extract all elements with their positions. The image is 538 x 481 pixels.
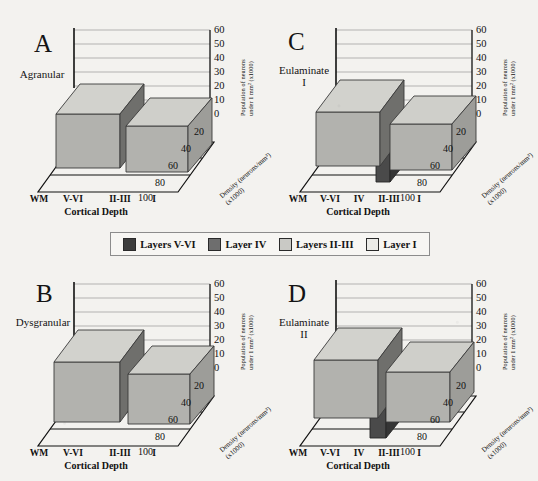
tick-x-i: I	[410, 194, 428, 204]
panel-c: C Eulaminate I	[262, 18, 531, 233]
legend-label-layers-ii-iii: Layers II-III	[296, 239, 353, 250]
tick-y-0: 0	[214, 362, 232, 373]
panel-b-plot: 60 50 40 30 20 10 0 Population of neuron…	[28, 276, 266, 472]
panel-c-plot: 60 50 40 30 20 10 0 Population of neuron…	[290, 22, 528, 218]
tick-x-ii-iii: II-III	[370, 194, 408, 204]
x-axis-label: Cortical Depth	[26, 460, 166, 471]
legend-item-layers-ii-iii: Layers II-III	[279, 238, 353, 251]
tick-y-60: 60	[214, 278, 232, 289]
tick-x-ii-iii: II-III	[370, 448, 408, 458]
tick-y-60: 60	[476, 24, 494, 35]
tick-density-40: 40	[443, 143, 453, 154]
tick-density-40: 40	[181, 143, 191, 154]
tick-y-60: 60	[476, 278, 494, 289]
legend-label-layer-i: Layer I	[383, 239, 416, 250]
tick-y-10: 10	[476, 348, 494, 359]
tick-x-i: I	[144, 194, 164, 204]
tick-y-20: 20	[214, 334, 232, 345]
tick-y-10: 10	[214, 94, 232, 105]
legend-item-layer-i: Layer I	[366, 238, 416, 251]
tick-y-50: 50	[476, 38, 494, 49]
tick-y-30: 30	[476, 66, 494, 77]
x-axis-label: Cortical Depth	[288, 460, 428, 471]
tick-y-40: 40	[476, 306, 494, 317]
tick-x-wm: WM	[282, 448, 314, 458]
tick-y-50: 50	[214, 38, 232, 49]
y-axis-label: Population of neurons under 1 mm² (x1000…	[239, 290, 255, 370]
tick-density-20: 20	[456, 380, 466, 391]
tick-y-40: 40	[214, 52, 232, 63]
tick-y-20: 20	[214, 80, 232, 91]
panel-d: D Eulaminate II	[262, 272, 531, 481]
tick-y-20: 20	[476, 334, 494, 345]
tick-density-20: 20	[194, 126, 204, 137]
swatch-layers-v-vi	[123, 238, 136, 251]
tick-y-0: 0	[476, 362, 494, 373]
tick-x-ii-iii: II-III	[100, 194, 140, 204]
tick-y-10: 10	[214, 348, 232, 359]
tick-density-60: 60	[430, 414, 440, 425]
tick-y-0: 0	[476, 108, 494, 119]
tick-y-50: 50	[214, 292, 232, 303]
y-axis-label: Population of neurons under 1 mm² (x1000…	[501, 36, 517, 116]
tick-density-80: 80	[417, 177, 427, 188]
tick-density-60: 60	[168, 160, 178, 171]
swatch-layer-i	[366, 238, 379, 251]
tick-y-40: 40	[214, 306, 232, 317]
swatch-layer-iv	[208, 238, 221, 251]
swatch-layers-ii-iii	[279, 238, 292, 251]
tick-y-0: 0	[214, 108, 232, 119]
tick-y-60: 60	[214, 24, 232, 35]
tick-density-80: 80	[155, 431, 165, 442]
tick-density-20: 20	[194, 380, 204, 391]
tick-density-80: 80	[155, 177, 165, 188]
tick-x-ii-iii: II-III	[100, 448, 140, 458]
tick-x-iv: IV	[348, 448, 370, 458]
y-axis-label: Population of neurons under 1 mm² (x1000…	[501, 290, 517, 370]
tick-density-40: 40	[443, 397, 453, 408]
legend: Layers V-VI Layer IV Layers II-III Layer…	[110, 232, 430, 256]
tick-x-v-vi: V-VI	[312, 448, 348, 458]
tick-x-v-vi: V-VI	[54, 448, 92, 458]
tick-density-60: 60	[168, 414, 178, 425]
tick-density-40: 40	[181, 397, 191, 408]
tick-x-iv: IV	[348, 194, 370, 204]
tick-y-30: 30	[476, 320, 494, 331]
tick-y-10: 10	[476, 94, 494, 105]
tick-y-30: 30	[214, 66, 232, 77]
tick-y-20: 20	[476, 80, 494, 91]
y-axis-label: Population of neurons under 1 mm² (x1000…	[239, 36, 255, 116]
tick-density-60: 60	[430, 160, 440, 171]
tick-density-20: 20	[456, 126, 466, 137]
tick-x-i: I	[410, 448, 428, 458]
tick-density-80: 80	[417, 431, 427, 442]
legend-label-layer-iv: Layer IV	[225, 239, 266, 250]
tick-y-40: 40	[476, 52, 494, 63]
tick-x-wm: WM	[22, 448, 56, 458]
panel-a: A Agranular	[0, 18, 269, 233]
tick-x-wm: WM	[282, 194, 314, 204]
tick-x-i: I	[144, 448, 164, 458]
tick-y-30: 30	[214, 320, 232, 331]
tick-y-50: 50	[476, 292, 494, 303]
legend-label-layers-v-vi: Layers V-VI	[140, 239, 195, 250]
legend-item-layers-v-vi: Layers V-VI	[123, 238, 195, 251]
legend-item-layer-iv: Layer IV	[208, 238, 266, 251]
panel-a-plot: 60 50 40 30 20 10 0 Population of neuron…	[28, 22, 266, 218]
x-axis-label: Cortical Depth	[288, 206, 428, 217]
panel-d-plot: 60 50 40 30 20 10 0 Population of neuron…	[290, 276, 528, 472]
panel-b: B Dysgranular	[0, 272, 269, 481]
figure-root: A Agranular	[0, 0, 538, 481]
tick-x-v-vi: V-VI	[54, 194, 92, 204]
x-axis-label: Cortical Depth	[26, 206, 166, 217]
tick-x-v-vi: V-VI	[312, 194, 348, 204]
tick-x-wm: WM	[22, 194, 56, 204]
